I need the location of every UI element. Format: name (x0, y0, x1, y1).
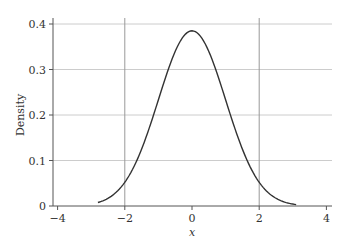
y-tick-label: 0.3 (29, 64, 47, 77)
y-axis-label: Density (14, 93, 27, 136)
y-tick-label: 0.4 (29, 18, 47, 31)
x-tick-label: 4 (323, 212, 330, 225)
x-tick-label: 2 (256, 212, 263, 225)
grid-lines (53, 24, 332, 161)
density-chart: 00.10.20.30.4 −4−2024 x Density (0, 0, 346, 248)
x-axis-label: x (189, 226, 196, 239)
x-tick-label: −2 (117, 212, 133, 225)
reference-vertical-lines (125, 18, 259, 206)
x-axis-ticks: −4−2024 (49, 206, 329, 225)
y-tick-label: 0 (39, 200, 46, 213)
y-tick-label: 0.1 (29, 155, 47, 168)
density-curve (98, 31, 296, 205)
axes (53, 18, 332, 206)
y-axis-ticks: 00.10.20.30.4 (29, 18, 54, 213)
x-tick-label: −4 (49, 212, 65, 225)
y-tick-label: 0.2 (29, 109, 47, 122)
x-tick-label: 0 (189, 212, 196, 225)
